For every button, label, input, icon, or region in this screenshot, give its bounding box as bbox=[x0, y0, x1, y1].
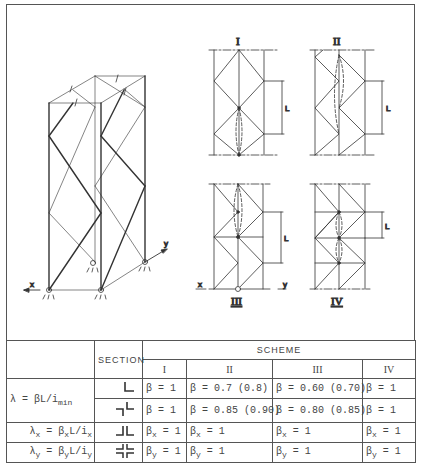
cell-IV-row4: βy = 1 bbox=[363, 443, 416, 463]
scheme-I-label: I bbox=[236, 35, 240, 47]
scheme-III-length-label: L bbox=[284, 234, 289, 243]
scheme-III-axis-y: y bbox=[283, 280, 287, 289]
cell-II-row2: β = 0.85 (0.90) bbox=[187, 399, 273, 423]
lambda-x-formula: λx = βxL/ix bbox=[7, 423, 95, 443]
lambda-min-formula: λ = βL/imin bbox=[7, 379, 95, 423]
scheme-II-length-label: L bbox=[386, 104, 391, 113]
scheme-II-label: II bbox=[333, 35, 341, 47]
scheme-I-length-label: L bbox=[285, 104, 290, 113]
cell-II-row4: βy = 1 bbox=[187, 443, 273, 463]
table-row: λx = βxL/ix βx = 1 βx = 1 βx = 1 βx = 1 bbox=[7, 423, 416, 443]
cell-II-row3: βx = 1 bbox=[187, 423, 273, 443]
cell-I-row2: β = 1 bbox=[143, 399, 187, 423]
table-row: λ = βL/imin β = 1 β = 0.7 (0.8) β = 0.60… bbox=[7, 379, 416, 399]
table-row: λy = βyL/iy βy = 1 βy = 1 βy = 1 βy = 1 bbox=[7, 443, 416, 463]
cell-III-row4: βy = 1 bbox=[273, 443, 363, 463]
scheme-IV-diagram bbox=[310, 184, 384, 289]
double-angle-offset-section-icon bbox=[95, 399, 143, 423]
cell-III-row1: β = 0.60 (0.70) bbox=[273, 379, 363, 399]
table-corner-cell bbox=[7, 341, 95, 379]
cell-IV-row2: β = 1 bbox=[363, 399, 416, 423]
lambda-y-formula: λy = βyL/iy bbox=[7, 443, 95, 463]
bracing-schemes-figure: x y I L bbox=[0, 0, 421, 340]
cell-IV-row3: βx = 1 bbox=[363, 423, 416, 443]
scheme-III-diagram bbox=[196, 184, 286, 292]
cell-I-row4: βy = 1 bbox=[143, 443, 187, 463]
scheme-header: SCHEME bbox=[143, 341, 416, 360]
cell-IV-row1: β = 1 bbox=[363, 379, 416, 399]
cruciform-angle-section-icon bbox=[95, 443, 143, 463]
cell-III-row2: β = 0.80 (0.85) bbox=[273, 399, 363, 423]
axis-x-label: x bbox=[30, 280, 34, 289]
cell-I-row3: βx = 1 bbox=[143, 423, 187, 443]
scheme-IV-label: IV bbox=[331, 295, 343, 307]
single-angle-section-icon bbox=[95, 379, 143, 399]
double-angle-back-to-back-section-icon bbox=[95, 423, 143, 443]
scheme-III-axis-x: x bbox=[198, 280, 202, 289]
scheme-III-label: III bbox=[231, 295, 242, 307]
scheme-II-diagram bbox=[310, 50, 384, 155]
cell-I-row1: β = 1 bbox=[143, 379, 187, 399]
pin-support-icons bbox=[43, 260, 150, 300]
beta-coefficients-table: SECTION SCHEME I II III IV λ = βL/imin β… bbox=[6, 340, 416, 463]
section-header: SECTION bbox=[95, 341, 143, 379]
column-header-II: II bbox=[187, 360, 273, 379]
column-header-IV: IV bbox=[363, 360, 416, 379]
scheme-I-diagram bbox=[209, 50, 284, 156]
cell-III-row3: βx = 1 bbox=[273, 423, 363, 443]
cell-II-row1: β = 0.7 (0.8) bbox=[187, 379, 273, 399]
column-header-III: III bbox=[273, 360, 363, 379]
column-header-I: I bbox=[143, 360, 187, 379]
tower-3d-drawing: x y bbox=[24, 75, 168, 299]
scheme-IV-length-label: L bbox=[385, 222, 390, 231]
axis-y-label: y bbox=[164, 239, 168, 248]
